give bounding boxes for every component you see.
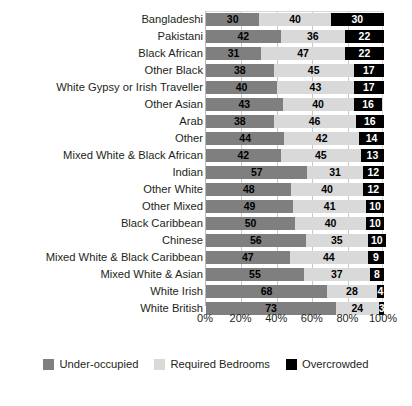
bar-segment-under-occupied: 38: [206, 115, 274, 128]
chart-row: Pakistani423622: [0, 28, 412, 45]
bar-segment-overcrowded: 22: [345, 47, 384, 60]
bar-segment-required-bedrooms: 31: [307, 166, 362, 179]
chart-row: Other444214: [0, 130, 412, 147]
legend-item[interactable]: Required Bedrooms: [154, 358, 270, 371]
category-label: Other Asian: [145, 96, 203, 113]
bar-segment-overcrowded: 17: [354, 81, 384, 94]
bar-track: 47449: [206, 251, 384, 264]
category-label: Other: [175, 130, 203, 147]
bar-segment-required-bedrooms: 40: [295, 217, 366, 230]
bar-track: 444214: [206, 132, 384, 145]
bar-segment-under-occupied: 55: [206, 268, 304, 281]
chart-row: Other Black384517: [0, 62, 412, 79]
bar-segment-overcrowded: 4: [377, 285, 384, 298]
chart-row: Mixed White & Black Caribbean47449: [0, 249, 412, 266]
category-label: Mixed White & Black Caribbean: [46, 249, 203, 266]
stacked-bar-chart: Bangladeshi304030Pakistani423622Black Af…: [0, 0, 412, 406]
category-label: Pakistani: [158, 28, 203, 45]
legend-label: Overcrowded: [302, 358, 369, 371]
bar-segment-required-bedrooms: 45: [281, 149, 361, 162]
bar-segment-required-bedrooms: 40: [259, 13, 330, 26]
category-label: White Gypsy or Irish Traveller: [56, 79, 203, 96]
bar-track: 384517: [206, 64, 384, 77]
x-axis: 0%20%40%60%80%100%: [205, 309, 383, 327]
bar-track: 484012: [206, 183, 384, 196]
bar-segment-under-occupied: 57: [206, 166, 307, 179]
bar-track: 304030: [206, 13, 384, 26]
bar-segment-required-bedrooms: 35: [306, 234, 368, 247]
category-label: Mixed White & Asian: [100, 266, 203, 283]
bar-segment-required-bedrooms: 41: [293, 200, 366, 213]
category-label: Bangladeshi: [141, 11, 203, 28]
chart-row: White Gypsy or Irish Traveller404317: [0, 79, 412, 96]
chart-row: Arab384616: [0, 113, 412, 130]
chart-row: Indian573112: [0, 164, 412, 181]
bar-segment-overcrowded: 13: [361, 149, 384, 162]
category-label: Black Caribbean: [121, 215, 203, 232]
bar-segment-under-occupied: 31: [206, 47, 261, 60]
bar-track: 563510: [206, 234, 384, 247]
bar-segment-under-occupied: 56: [206, 234, 306, 247]
bar-segment-under-occupied: 44: [206, 132, 284, 145]
bar-segment-under-occupied: 43: [206, 98, 283, 111]
x-axis-tick: 60%: [301, 309, 323, 327]
bar-segment-required-bedrooms: 45: [274, 64, 354, 77]
bar-segment-required-bedrooms: 43: [277, 81, 354, 94]
bar-track: 404317: [206, 81, 384, 94]
bar-segment-under-occupied: 30: [206, 13, 259, 26]
bar-track: 494110: [206, 200, 384, 213]
bar-segment-overcrowded: 14: [359, 132, 384, 145]
bar-segment-overcrowded: 22: [345, 30, 384, 43]
bar-segment-overcrowded: 9: [368, 251, 384, 264]
bar-track: 314722: [206, 47, 384, 60]
bar-track: 424513: [206, 149, 384, 162]
legend-label: Required Bedrooms: [170, 358, 270, 371]
chart-row: Chinese563510: [0, 232, 412, 249]
bar-track: 504010: [206, 217, 384, 230]
bar-segment-required-bedrooms: 40: [291, 183, 362, 196]
bar-segment-required-bedrooms: 46: [274, 115, 356, 128]
bar-segment-required-bedrooms: 40: [283, 98, 354, 111]
bar-segment-under-occupied: 40: [206, 81, 277, 94]
chart-row: Black Caribbean504010: [0, 215, 412, 232]
category-label: Chinese: [162, 232, 203, 249]
bar-segment-under-occupied: 42: [206, 30, 281, 43]
bar-segment-required-bedrooms: 36: [281, 30, 345, 43]
bar-segment-overcrowded: 10: [366, 217, 384, 230]
chart-row: Black African314722: [0, 45, 412, 62]
category-label: Other Black: [145, 62, 203, 79]
bar-track: 68284: [206, 285, 384, 298]
category-label: Black African: [138, 45, 203, 62]
bar-segment-overcrowded: 10: [366, 200, 384, 213]
bar-track: 434016: [206, 98, 384, 111]
chart-row: White Irish68284: [0, 283, 412, 300]
chart-row: Other White484012: [0, 181, 412, 198]
bar-segment-under-occupied: 38: [206, 64, 274, 77]
bar-segment-required-bedrooms: 44: [290, 251, 368, 264]
chart-row: Other Asian434016: [0, 96, 412, 113]
bar-segment-required-bedrooms: 42: [284, 132, 359, 145]
bar-segment-overcrowded: 10: [368, 234, 386, 247]
bar-track: 384616: [206, 115, 384, 128]
bar-segment-under-occupied: 42: [206, 149, 281, 162]
bar-segment-under-occupied: 49: [206, 200, 293, 213]
chart-rows: Bangladeshi304030Pakistani423622Black Af…: [0, 11, 412, 317]
legend-item[interactable]: Overcrowded: [286, 358, 369, 371]
category-label: Other White: [143, 181, 203, 198]
x-axis-tick: 0%: [197, 309, 213, 327]
bar-segment-overcrowded: 12: [363, 183, 384, 196]
bar-segment-overcrowded: 8: [370, 268, 384, 281]
bar-segment-required-bedrooms: 37: [304, 268, 370, 281]
bar-track: 55378: [206, 268, 384, 281]
legend-swatch-icon: [154, 359, 165, 370]
chart-row: Bangladeshi304030: [0, 11, 412, 28]
legend-item[interactable]: Under-occupied: [43, 358, 138, 371]
category-label: Other Mixed: [142, 198, 203, 215]
x-axis-tick: 80%: [336, 309, 358, 327]
chart-row: Mixed White & Black African424513: [0, 147, 412, 164]
category-label: White Irish: [150, 283, 203, 300]
bar-segment-overcrowded: 16: [356, 115, 384, 128]
legend-swatch-icon: [43, 359, 54, 370]
bar-segment-required-bedrooms: 47: [261, 47, 345, 60]
bar-segment-overcrowded: 17: [354, 64, 384, 77]
